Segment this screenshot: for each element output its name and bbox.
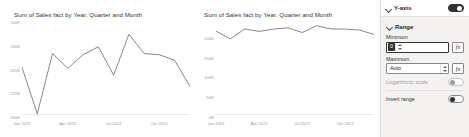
chart-title: Sum of Sales fact by Year, Quarter and M… bbox=[204, 11, 332, 18]
x-axis-tick-label: Oct 2021 bbox=[151, 121, 168, 126]
y-axis-tick-label: 150K bbox=[204, 55, 214, 60]
format-panel-y-axis: Y-axis Range Minimum 0 bbox=[380, 0, 469, 137]
maximum-label: Maximum bbox=[386, 56, 464, 62]
stepper-up-icon[interactable] bbox=[398, 44, 402, 46]
maximum-field: Maximum Auto fx bbox=[386, 56, 464, 75]
maximum-input[interactable]: Auto bbox=[386, 63, 449, 74]
toggle-knob bbox=[450, 80, 455, 85]
invert-range-row: Invert range bbox=[386, 95, 464, 103]
x-axis-tick-label: Jul 2021 bbox=[294, 121, 310, 126]
series-polyline bbox=[216, 26, 374, 39]
x-axis-labels: Jan 2021Apr 2021Jul 2021Oct 2021 bbox=[216, 121, 374, 131]
y-axis-tick-label: 230K bbox=[10, 43, 20, 48]
x-axis-tick-label: Jan 2021 bbox=[207, 121, 224, 126]
stepper-up-icon[interactable] bbox=[443, 66, 447, 68]
plot-area bbox=[216, 24, 374, 115]
y-axis-header[interactable]: Y-axis bbox=[381, 0, 469, 17]
minimum-field: Minimum 0 fx bbox=[386, 34, 464, 53]
y-axis-labels: 200K210K220K230K240K bbox=[0, 22, 22, 117]
range-section-title: Range bbox=[395, 24, 413, 30]
toggle-knob bbox=[457, 6, 462, 11]
y-axis-tick-label: 200K bbox=[204, 35, 214, 40]
charts-area: Sum of Sales fact by Year, Quarter and M… bbox=[0, 0, 380, 137]
chart-title: Sum of Sales fact by Year, Quarter and M… bbox=[14, 11, 142, 18]
x-axis-tick-label: Oct 2021 bbox=[337, 121, 354, 126]
y-axis-tick-label: 0K bbox=[209, 115, 214, 120]
y-axis-tick-label: 220K bbox=[10, 67, 20, 72]
minimum-row: 0 fx bbox=[386, 42, 464, 53]
stepper-down-icon[interactable] bbox=[398, 48, 402, 50]
invert-range-label: Invert range bbox=[386, 96, 448, 102]
line-chart-auto-min[interactable]: Sum of Sales fact by Year, Quarter and M… bbox=[0, 0, 196, 137]
series-line-path bbox=[22, 24, 190, 115]
x-axis-tick-label: Apr 2021 bbox=[59, 121, 76, 126]
y-axis-tick-label: 100K bbox=[204, 75, 214, 80]
y-axis-tick-label: 240K bbox=[10, 20, 20, 25]
divider bbox=[386, 90, 464, 91]
minimum-label: Minimum bbox=[386, 34, 464, 40]
maximum-row: Auto fx bbox=[386, 63, 464, 74]
chevron-down-icon[interactable] bbox=[386, 23, 393, 30]
minimum-input[interactable]: 0 bbox=[386, 42, 449, 53]
minimum-value: 0 bbox=[388, 43, 395, 50]
maximum-stepper[interactable] bbox=[440, 64, 448, 73]
panel-body: Range Minimum 0 fx Max bbox=[381, 17, 469, 103]
logarithmic-scale-label: Logarithmic scale bbox=[386, 79, 448, 85]
range-section-header[interactable]: Range bbox=[386, 23, 464, 30]
logarithmic-scale-toggle[interactable] bbox=[448, 78, 464, 86]
x-axis-tick-label: Apr 2021 bbox=[251, 121, 268, 126]
y-axis-title: Y-axis bbox=[394, 5, 448, 11]
toggle-knob bbox=[450, 97, 455, 102]
line-chart-zero-min[interactable]: Sum of Sales fact by Year, Quarter and M… bbox=[196, 0, 380, 137]
x-axis-tick-label: Jan 2021 bbox=[13, 121, 30, 126]
chevron-down-icon[interactable] bbox=[385, 5, 392, 12]
maximum-value: Auto bbox=[387, 66, 440, 71]
plot-area bbox=[22, 24, 190, 115]
maximum-fx-button[interactable]: fx bbox=[452, 63, 464, 74]
series-line-path bbox=[216, 24, 374, 115]
y-axis-toggle[interactable] bbox=[448, 4, 464, 12]
x-axis-labels: Jan 2021Apr 2021Jul 2021Oct 2021 bbox=[22, 121, 190, 131]
y-axis-tick-label: 210K bbox=[10, 91, 20, 96]
logarithmic-scale-row: Logarithmic scale bbox=[386, 78, 464, 86]
stepper-down-icon[interactable] bbox=[443, 70, 447, 72]
invert-range-toggle[interactable] bbox=[448, 95, 464, 103]
y-axis-tick-label: 200K bbox=[10, 115, 20, 120]
x-axis-tick-label: Jul 2021 bbox=[106, 121, 122, 126]
y-axis-labels: 0K50K100K150K200K bbox=[196, 22, 216, 117]
y-axis-tick-label: 50K bbox=[207, 95, 214, 100]
minimum-fx-button[interactable]: fx bbox=[452, 42, 464, 53]
series-polyline bbox=[22, 34, 190, 114]
powerbi-report-view: Sum of Sales fact by Year, Quarter and M… bbox=[0, 0, 469, 137]
minimum-stepper[interactable] bbox=[395, 43, 403, 52]
